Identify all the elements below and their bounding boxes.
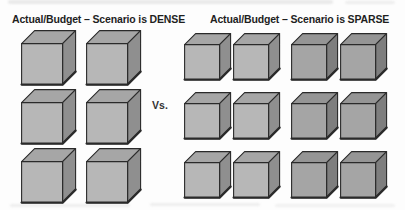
cube-sparse-r2-c1 <box>183 91 232 140</box>
cube-front-face <box>22 103 63 144</box>
cube-sparse-r1-c2 <box>232 32 281 81</box>
cube-dense-r1-c1 <box>20 29 77 86</box>
cube-front-face <box>87 162 128 203</box>
cube-front-face <box>341 104 376 139</box>
dense-vs-sparse-figure: Actual/Budget – Scenario is DENSE Actual… <box>0 0 405 210</box>
cube-sparse-r2-c3 <box>290 91 339 140</box>
cube-front-face <box>22 162 63 203</box>
cube-sparse-r1-c4 <box>339 32 388 81</box>
cube-sparse-r2-c4 <box>339 91 388 140</box>
cube-front-face <box>185 104 220 139</box>
cube-front-face <box>87 103 128 144</box>
cube-sparse-r1-c1 <box>183 32 232 81</box>
cube-sparse-r3-c1 <box>183 150 232 199</box>
cube-dense-r3-c2 <box>85 147 142 204</box>
cube-front-face <box>22 44 63 85</box>
cube-dense-r1-c2 <box>85 29 142 86</box>
cube-dense-r2-c1 <box>20 88 77 145</box>
cube-front-face <box>292 163 327 198</box>
cube-front-face <box>185 163 220 198</box>
cube-front-face <box>292 104 327 139</box>
cube-sparse-r3-c4 <box>339 150 388 199</box>
cube-front-face <box>234 163 269 198</box>
cube-dense-r2-c2 <box>85 88 142 145</box>
scan-artifact <box>275 204 395 207</box>
dense-group-title: Actual/Budget – Scenario is DENSE <box>12 13 185 25</box>
scan-artifact <box>150 203 260 206</box>
cube-sparse-r1-c3 <box>290 32 339 81</box>
cube-dense-r3-c1 <box>20 147 77 204</box>
scan-artifact <box>8 0 333 4</box>
sparse-group-title: Actual/Budget – Scenario is SPARSE <box>210 13 389 25</box>
cube-front-face <box>87 44 128 85</box>
cube-front-face <box>234 45 269 80</box>
cube-sparse-r3-c3 <box>290 150 339 199</box>
cube-front-face <box>341 45 376 80</box>
cube-front-face <box>292 45 327 80</box>
cube-sparse-r2-c2 <box>232 91 281 140</box>
vs-label: Vs. <box>148 99 172 111</box>
cube-sparse-r3-c2 <box>232 150 281 199</box>
scan-artifact <box>345 1 395 4</box>
cube-front-face <box>341 163 376 198</box>
cube-front-face <box>185 45 220 80</box>
cube-front-face <box>234 104 269 139</box>
